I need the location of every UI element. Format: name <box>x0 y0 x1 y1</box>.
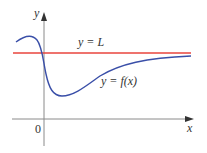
y-axis-label: y <box>33 6 40 20</box>
function-label: y = f(x) <box>100 74 137 88</box>
asymptote-label: y = L <box>77 35 104 49</box>
x-axis-label: x <box>186 121 193 135</box>
graph-canvas: y x 0 y = L y = f(x) <box>0 0 207 153</box>
y-axis-arrow-icon <box>41 12 47 21</box>
origin-label: 0 <box>35 122 41 136</box>
